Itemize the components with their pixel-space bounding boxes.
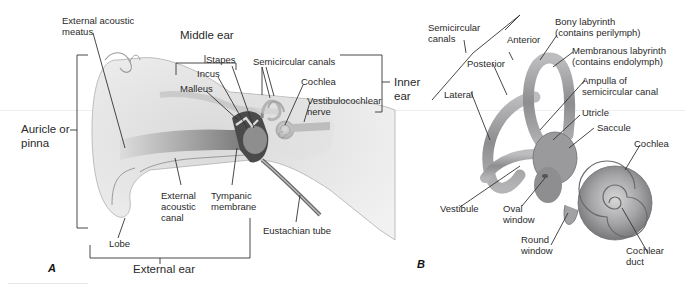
label-external-ear: External ear [133,262,195,276]
label-semicircular-canals: Semicircular canals [253,56,335,67]
label-semicircular-canals-b: Semicircular canals [428,22,480,44]
label-line: Cochlear [626,245,664,256]
label-vestibulocochlear-nerve: Vestibulocochlear nerve [307,95,381,117]
panel-letter-b: B [417,258,425,270]
label-line: membrane [211,201,256,212]
label-cochlea: Cochlea [301,76,336,87]
label-bony-labyrinth: Bony labyrinth (contains perilymph) [555,16,641,38]
label-line: Ampulla of [582,75,658,86]
label-line: acoustic [161,201,196,212]
label-round-window: Round window [521,234,553,256]
label-line: (contains perilymph) [555,27,641,38]
label-utricle: Utricle [582,107,609,118]
label-line: External [161,190,196,201]
label-line: Membranous labyrinth [572,45,666,56]
label-line: External acoustic [62,15,134,26]
ear-anatomy-illustration [0,0,685,288]
label-line: Tympanic [211,190,256,201]
label-line: Semicircular [428,22,480,33]
label-line: window [503,214,535,225]
label-line: semicircular canal [582,86,658,97]
label-line: duct [626,256,664,267]
panel-letter-a: A [48,262,56,274]
label-saccule: Saccule [597,122,631,133]
label-malleus: Malleus [180,83,213,94]
label-cochlear-duct: Cochlear duct [626,245,664,267]
label-line: nerve [307,106,381,117]
label-membranous-labyrinth: Membranous labyrinth (contains endolymph… [572,45,666,67]
label-line: (contains endolymph) [572,56,666,67]
label-line: Inner [394,75,420,89]
label-vestibule: Vestibule [440,203,479,214]
label-oval-window: Oval window [503,203,535,225]
label-line: Bony labyrinth [555,16,641,27]
label-middle-ear: Middle ear [180,28,234,42]
label-external-acoustic-canal: External acoustic canal [161,190,196,223]
label-eustachian-tube: Eustachian tube [263,225,331,236]
label-lateral: Lateral [444,89,473,100]
label-anterior: Anterior [507,34,540,45]
label-auricle-or-pinna: Auricle or pinna [21,122,70,150]
label-inner-ear: Inner ear [394,75,420,103]
label-line: Oval [503,203,535,214]
label-cochlea-b: Cochlea [634,138,669,149]
label-lobe: Lobe [109,238,130,249]
label-ampulla: Ampulla of semicircular canal [582,75,658,97]
label-line: Vestibulocochlear [307,95,381,106]
label-line: Auricle or [21,122,70,136]
label-incus: Incus [197,68,220,79]
label-external-acoustic-meatus: External acoustic meatus [62,15,134,37]
label-line: Round [521,234,553,245]
label-line: ear [394,89,420,103]
label-tympanic-membrane: Tympanic membrane [211,190,256,212]
label-line: canal [161,212,196,223]
label-line: pinna [21,136,70,150]
label-stapes: Stapes [206,54,236,65]
label-line: window [521,245,553,256]
label-line: meatus [62,26,134,37]
label-line: canals [428,33,480,44]
label-posterior: Posterior [467,58,505,69]
